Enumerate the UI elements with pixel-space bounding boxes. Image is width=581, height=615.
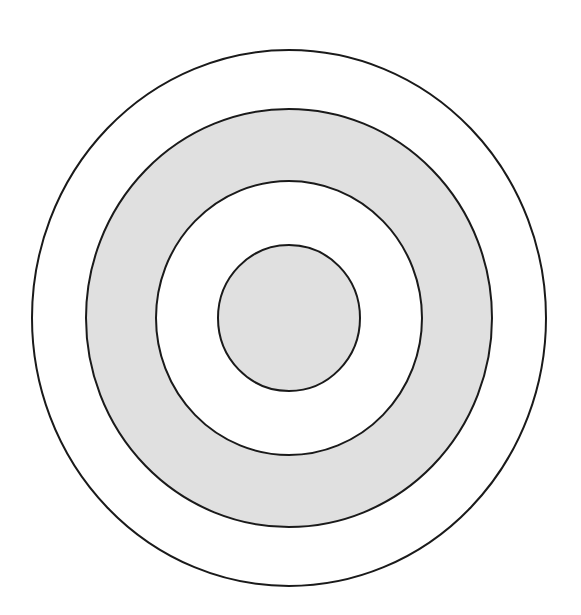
inner-disc — [218, 245, 360, 391]
concentric-circles-diagram — [0, 0, 581, 615]
